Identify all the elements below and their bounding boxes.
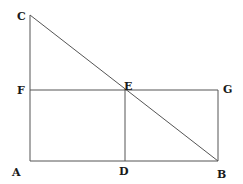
label-G: G bbox=[223, 83, 232, 96]
label-A: A bbox=[11, 166, 21, 179]
label-F: F bbox=[17, 84, 25, 97]
label-B: B bbox=[217, 168, 226, 181]
geometry-diagram: C F E G A D B bbox=[0, 0, 243, 184]
label-E: E bbox=[124, 80, 132, 93]
label-D: D bbox=[119, 165, 129, 178]
label-C: C bbox=[17, 10, 26, 23]
